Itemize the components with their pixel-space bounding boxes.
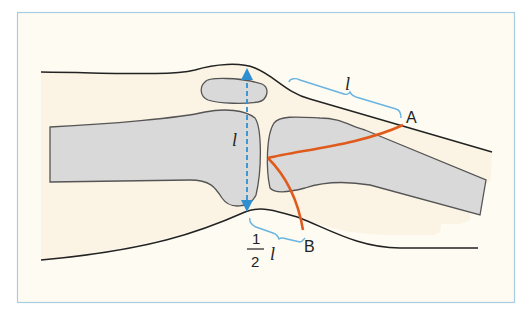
point-b-label: B	[304, 238, 315, 255]
vertical-length-label: l	[232, 130, 237, 150]
knee-diagram: l l A B 1 2 l	[0, 0, 531, 319]
half-denominator: 2	[251, 253, 259, 270]
patella-bone	[201, 78, 267, 103]
half-numerator: 1	[252, 230, 260, 247]
point-a-label: A	[406, 109, 417, 126]
half-length-label: l	[270, 244, 275, 264]
top-length-label: l	[345, 74, 350, 94]
